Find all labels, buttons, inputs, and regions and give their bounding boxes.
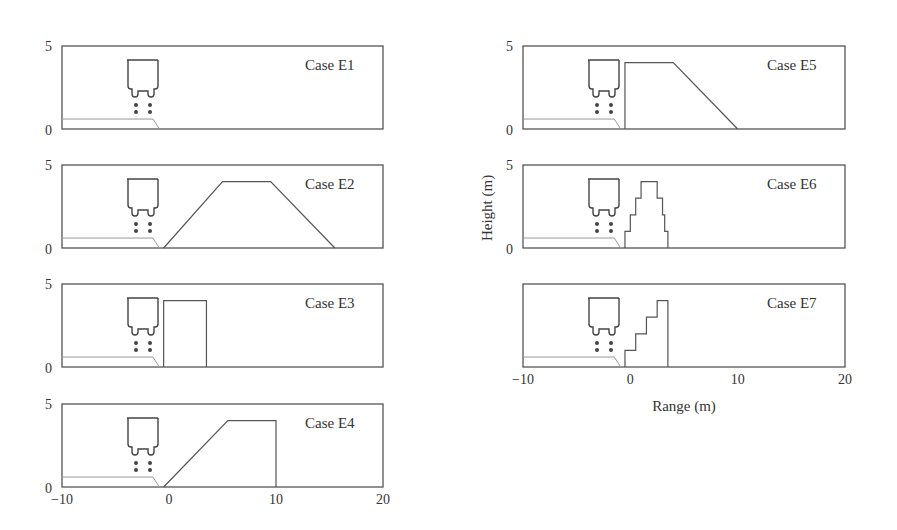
vehicle-platform [62,477,159,487]
wheel-dot [609,110,613,114]
wheel-dot [148,110,152,114]
x-tick: 10 [269,492,283,507]
vehicle-platform [62,238,159,248]
wheel-dot [148,468,152,472]
vehicle-platform [62,357,159,367]
y-tick-0: 0 [45,361,52,376]
x-tick: 0 [627,372,634,387]
wheel-dot [134,103,138,107]
vehicle-platform [62,119,159,129]
wheel-dot [609,222,613,226]
wheel-dot [134,222,138,226]
vehicle-platform [523,119,621,129]
wheel-dot [609,103,613,107]
y-tick-0: 0 [45,242,52,257]
vehicle-icon [588,298,619,352]
wheel-dot [148,341,152,345]
vehicle-icon [127,418,158,472]
y-tick-5: 5 [45,39,52,54]
y-tick-0: 0 [506,242,513,257]
x-tick: 20 [838,372,852,387]
wheel-dot [595,222,599,226]
x-axis-label: Range (m) [652,398,716,415]
wheel-dot [595,103,599,107]
x-tick: 0 [166,492,173,507]
panel-1: Case E150 [45,39,383,138]
panel-5: Case E550 [506,39,845,138]
terrain-profile [625,301,668,367]
wheel-dot [148,348,152,352]
case-label: Case E4 [305,415,355,431]
y-tick-5: 5 [45,277,52,292]
wheel-dot [134,348,138,352]
y-tick-5: 5 [45,158,52,173]
case-label: Case E3 [305,295,355,311]
vehicle-icon [127,179,158,233]
wheel-dot [609,348,613,352]
vehicle-icon [127,60,158,114]
wheel-dot [134,341,138,345]
case-label: Case E7 [767,295,817,311]
wheel-dot [134,461,138,465]
wheel-dot [595,110,599,114]
panel-2: Case E250 [45,158,383,257]
terrain-profile [625,63,738,129]
vehicle-platform [523,238,621,248]
vehicle-icon [127,298,158,352]
y-tick-0: 0 [506,123,513,138]
case-label: Case E2 [305,176,355,192]
case-label: Case E1 [305,57,355,73]
panel-6: Case E650 [506,158,845,257]
terrain-profile [164,421,276,487]
wheel-dot [134,229,138,233]
vehicle-platform [523,357,621,367]
y-tick-5: 5 [45,397,52,412]
x-tick: 10 [731,372,745,387]
wheel-dot [148,229,152,233]
panel-3: Case E350 [45,277,383,376]
case-label: Case E6 [767,176,817,192]
x-tick: 20 [376,492,390,507]
wheel-dot [148,103,152,107]
vehicle-icon [588,60,619,114]
wheel-dot [595,341,599,345]
wheel-dot [148,461,152,465]
wheel-dot [609,341,613,345]
panel-4: Case E450 [45,397,383,496]
wheel-dot [148,222,152,226]
wheel-dot [134,110,138,114]
x-tick: −10 [512,372,534,387]
y-tick-0: 0 [45,123,52,138]
terrain-profile [625,182,668,248]
panel-7: Case E7 [523,284,845,367]
vehicle-icon [588,179,619,233]
wheel-dot [609,229,613,233]
terrain-cases-figure: Case E150Case E250Case E350Case E450Case… [0,0,897,530]
y-axis-label: Height (m) [479,175,496,241]
case-label: Case E5 [767,57,817,73]
y-tick-5: 5 [506,39,513,54]
wheel-dot [595,348,599,352]
x-tick: −10 [51,492,73,507]
wheel-dot [595,229,599,233]
terrain-profile [164,301,207,367]
wheel-dot [134,468,138,472]
y-tick-5: 5 [506,158,513,173]
